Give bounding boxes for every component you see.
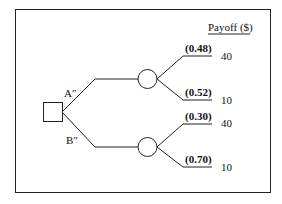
outcome-b2-payoff: 10 — [221, 161, 233, 173]
decision-node-square — [44, 103, 63, 122]
outcome-b1-line — [157, 124, 212, 147]
payoff-header: Payoff ($) — [208, 21, 253, 34]
outcome-a2-probability: (0.52) — [185, 86, 212, 99]
branch-b-label: B″ — [66, 134, 78, 146]
outcome-a1-probability: (0.48) — [185, 42, 212, 55]
frame-border — [16, 10, 271, 193]
chance-node-b — [138, 138, 157, 157]
chance-node-a — [138, 70, 157, 89]
outcome-b2-probability: (0.70) — [185, 153, 212, 166]
decision-tree-diagram: Payoff ($) A″ (0.48) (0.52) 40 10 B″ (0.… — [0, 0, 282, 204]
branch-a-label: A″ — [64, 87, 77, 99]
outcome-a2-payoff: 10 — [221, 94, 233, 106]
outcome-a1-payoff: 40 — [221, 50, 233, 62]
outcome-b1-payoff: 40 — [221, 117, 233, 129]
outcome-a1-line — [157, 56, 212, 79]
outcome-b1-probability: (0.30) — [185, 110, 212, 123]
